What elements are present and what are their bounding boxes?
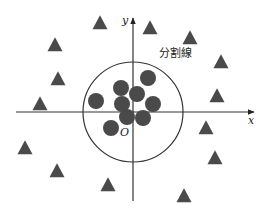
circle-point [103, 120, 119, 136]
diagram-svg: y x O 分割線 [0, 0, 267, 214]
triangle-point [210, 88, 225, 102]
triangle-point [183, 30, 198, 44]
circle-point [145, 96, 161, 112]
triangle-point [48, 37, 63, 51]
boundary-label: 分割線 [159, 46, 192, 60]
classification-diagram: y x O 分割線 [0, 0, 267, 214]
origin-label: O [120, 126, 129, 139]
triangle-point [199, 120, 214, 134]
circle-point [140, 70, 156, 86]
triangle-point [93, 15, 108, 29]
triangle-point [177, 188, 192, 202]
triangle-point [33, 96, 48, 110]
triangle-point [18, 140, 33, 154]
y-axis-label: y [121, 14, 129, 27]
triangle-point [214, 54, 229, 68]
triangle-point [51, 71, 66, 85]
circle-point [119, 109, 135, 125]
triangle-point [208, 150, 223, 164]
circle-point [129, 86, 145, 102]
circle-point [88, 93, 104, 109]
triangle-point [101, 177, 116, 191]
triangle-point [143, 20, 158, 34]
circle-point [113, 80, 129, 96]
circle-point [135, 110, 151, 126]
triangle-point [50, 163, 65, 177]
x-axis-label: x [248, 114, 255, 127]
